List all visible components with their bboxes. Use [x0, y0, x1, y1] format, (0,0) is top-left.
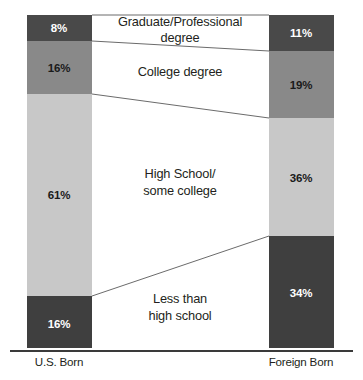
value-label-us-graduate-professional: 8% [51, 22, 67, 34]
axis-label-foreign-born: Foreign Born [269, 355, 334, 368]
stacked-bar-slopegraph-chart: 8% 16% 61% 16% 11% 19% 36% 34% Graduate/… [0, 0, 363, 380]
axis-label-us-born: U.S. Born [35, 355, 83, 368]
connector-highschool-lessthan-boundary [92, 236, 269, 296]
category-label-less-than-high-school-line2: high school [148, 308, 211, 323]
connector-lines [92, 15, 269, 296]
category-label-less-than-high-school-line1: Less than [153, 291, 207, 306]
value-label-foreign-less-than-high-school: 34% [290, 287, 313, 299]
value-label-us-college-degree: 16% [48, 62, 71, 74]
value-label-foreign-college-degree: 19% [290, 79, 313, 91]
category-label-college-degree: College degree [138, 64, 223, 79]
chart-canvas: 8% 16% 61% 16% 11% 19% 36% 34% Graduate/… [0, 0, 363, 380]
value-label-us-high-school: 61% [48, 189, 71, 201]
category-label-high-school-line1: High School/ [145, 166, 216, 181]
value-label-foreign-high-school: 36% [290, 172, 313, 184]
category-label-high-school-line2: some college [143, 183, 217, 198]
value-label-foreign-graduate-professional: 11% [290, 27, 312, 39]
value-label-us-less-than-high-school: 16% [48, 318, 71, 330]
category-label-graduate-professional-line1: Graduate/Professional [118, 14, 242, 29]
axis-tick-labels: U.S. Born Foreign Born [35, 355, 334, 368]
connector-college-highschool-boundary [92, 94, 269, 118]
category-label-graduate-professional-line2: degree [161, 30, 200, 45]
category-labels: Graduate/Professional degree College deg… [118, 14, 242, 323]
